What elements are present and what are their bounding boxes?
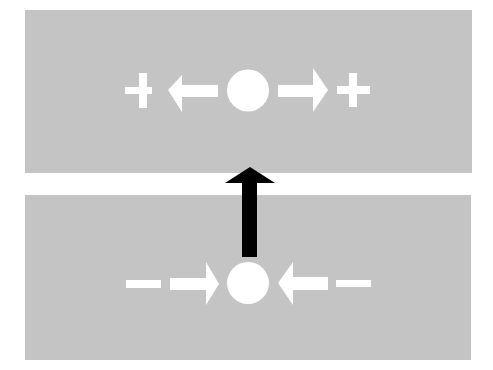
charge-circle-icon xyxy=(227,70,269,112)
upper-panel xyxy=(25,10,472,173)
minus-sign-icon xyxy=(336,280,371,287)
diagram-canvas xyxy=(0,0,493,370)
charge-circle-icon xyxy=(227,262,269,304)
minus-sign-icon xyxy=(126,280,161,288)
